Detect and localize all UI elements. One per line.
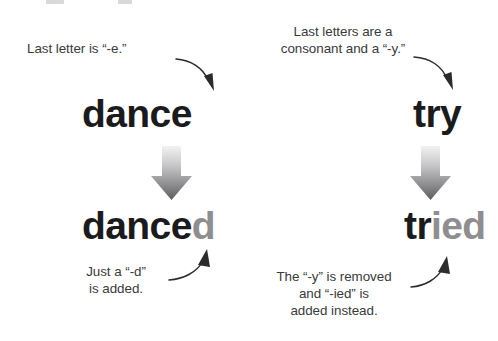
word-tried: tried <box>404 204 486 248</box>
word-try: try <box>413 92 461 136</box>
word-try-stem: try <box>413 92 461 135</box>
curved-arrow-to-danced <box>169 249 210 280</box>
word-danced-stem: dance <box>82 204 192 247</box>
caption-last-letter-e: Last letter is “-e.” <box>27 40 187 57</box>
cropped-text-remnant-left <box>46 0 64 4</box>
word-danced-suffix: d <box>192 204 215 247</box>
word-danced: danced <box>82 204 215 248</box>
curved-arrow-to-try <box>414 57 453 90</box>
word-dance-stem: dance <box>82 92 192 135</box>
word-tried-suffix: ied <box>431 204 486 247</box>
caption-consonant-and-y: Last letters are a consonant and a “-y.” <box>250 23 436 57</box>
caption-just-a-d-is-added: Just a “-d” is added. <box>58 263 174 297</box>
down-gradient-arrow-dance <box>151 146 192 200</box>
down-gradient-arrow-try <box>410 146 451 200</box>
cropped-text-remnant-right <box>118 0 132 4</box>
caption-y-removed-ied-added: The “-y” is removed and “-ied” is added … <box>248 268 420 319</box>
curved-arrow-to-dance <box>176 59 214 91</box>
word-dance: dance <box>82 92 192 136</box>
word-tried-stem: tr <box>404 204 431 247</box>
diagram-canvas: Last letter is “-e.” dance danced Just a… <box>0 0 498 341</box>
